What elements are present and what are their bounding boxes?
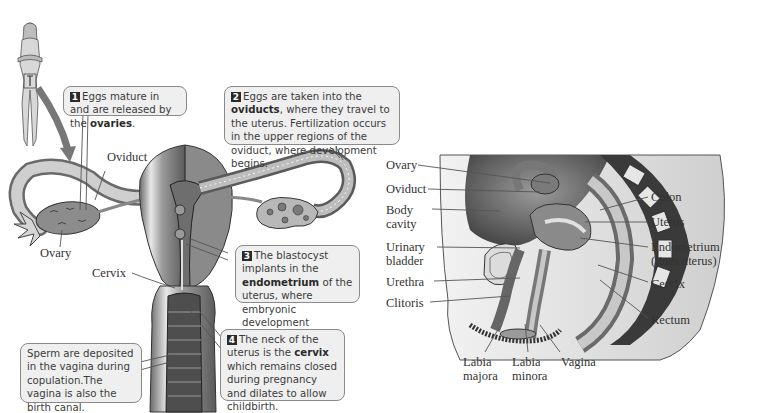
- label-vagina: Vagina: [561, 355, 596, 369]
- label-cervix: Cervix: [92, 266, 126, 280]
- step-number-badge: 1: [70, 92, 80, 102]
- label-ovary: Ovary: [40, 246, 71, 260]
- label-oviduct-right: Oviduct: [386, 182, 426, 196]
- callout-3-endometrium: 3The blastocyst implants in the endometr…: [235, 245, 360, 303]
- step-number-badge: 2: [231, 92, 241, 102]
- label-oviduct: Oviduct: [107, 150, 147, 164]
- step-number-badge: 4: [227, 335, 237, 345]
- label-urinary-bladder: Urinary bladder: [386, 240, 436, 268]
- label-uterus: Uterus: [651, 215, 684, 229]
- label-labia-minora: Labia minora: [512, 355, 552, 383]
- callout-2-oviducts: 2Eggs are taken into the oviducts, where…: [224, 86, 400, 145]
- label-body-cavity: Body cavity: [386, 203, 430, 231]
- label-cervix-right: Cervix: [651, 277, 685, 291]
- reproductive-system-figure: Oviduct Ovary Cervix 1Eggs mature in and…: [0, 0, 760, 413]
- label-clitoris: Clitoris: [386, 296, 424, 310]
- label-urethra: Urethra: [386, 275, 424, 289]
- callout-4-cervix: 4The neck of the uterus is the cervix wh…: [220, 329, 345, 401]
- label-rectum: Rectum: [651, 313, 690, 327]
- woman-figure-icon: [18, 23, 42, 146]
- label-ovary-right: Ovary: [386, 158, 417, 172]
- label-labia-majora: Labia majora: [463, 355, 503, 383]
- step-number-badge: 3: [242, 251, 252, 261]
- label-endometrium: Endometrium (lines uterus): [651, 240, 731, 268]
- callout-sperm-vagina: Sperm are deposited in the vagina during…: [20, 343, 142, 403]
- label-colon: Colon: [651, 190, 682, 204]
- callout-1-ovaries: 1Eggs mature in and are released by the …: [63, 86, 187, 116]
